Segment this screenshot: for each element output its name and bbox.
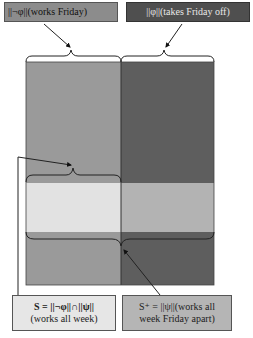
brace-phi — [121, 50, 214, 62]
arrow-not-phi — [44, 24, 70, 47]
diagram-lines — [0, 0, 253, 338]
arrow-splus — [124, 250, 160, 295]
brace-splus — [26, 232, 214, 246]
brace-not-phi — [26, 50, 121, 62]
arrow-phi — [166, 24, 182, 47]
brace-s — [26, 168, 121, 182]
